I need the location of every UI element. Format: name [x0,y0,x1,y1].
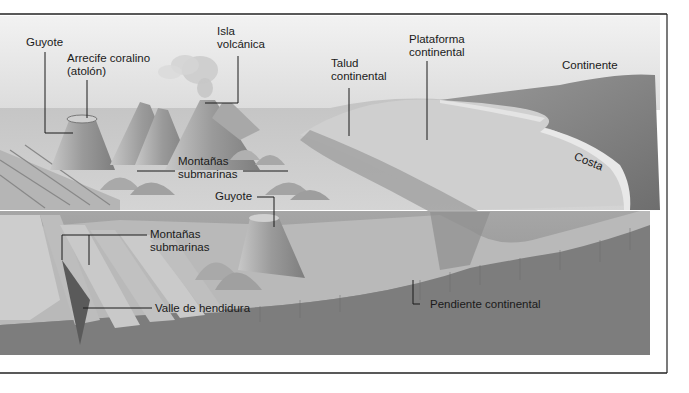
bottom-margin [0,355,660,372]
label-plataforma-line1: Plataforma [409,33,465,46]
label-montanas-submarinas-upper: Montañas submarinas [178,155,237,181]
label-talud-line2: continental [331,70,387,83]
label-talud-line1: Talud [331,57,387,70]
label-isla-line2: volcánica [217,38,265,51]
label-montanas-lower-line1: Montañas [150,228,209,241]
label-guyote-lower: Guyote [215,190,252,203]
label-montanas-lower-line2: submarinas [150,241,209,254]
label-valle-de-hendidura: Valle de hendidura [155,302,250,315]
label-continente: Continente [562,59,618,72]
label-montanas-upper-line2: submarinas [178,168,237,181]
label-arrecife-coralino: Arrecife coralino (atolón) [67,52,150,78]
label-guyote-top: Guyote [26,36,63,49]
label-continente-text: Continente [562,59,618,72]
label-pendiente-text: Pendiente continental [430,298,541,311]
label-isla-line1: Isla [217,25,265,38]
label-plataforma-continental: Plataforma continental [409,33,465,59]
label-valle-text: Valle de hendidura [155,302,250,315]
label-montanas-submarinas-lower: Montañas submarinas [150,228,209,254]
label-plataforma-line2: continental [409,46,465,59]
label-guyote-lower-text: Guyote [215,190,252,203]
label-guyote-top-text: Guyote [26,36,63,49]
label-arrecife-line1: Arrecife coralino [67,52,150,65]
diagram-frame: Guyote Arrecife coralino (atolón) Isla v… [0,0,689,393]
label-talud-continental: Talud continental [331,57,387,83]
label-isla-volcanica: Isla volcánica [217,25,265,51]
label-pendiente-continental: Pendiente continental [430,298,541,311]
label-arrecife-line2: (atolón) [67,65,150,78]
label-montanas-upper-line1: Montañas [178,155,237,168]
